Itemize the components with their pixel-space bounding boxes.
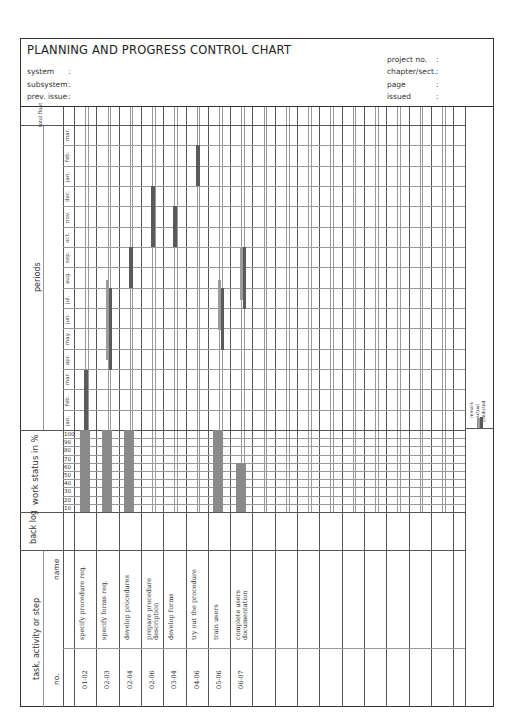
grid-line bbox=[420, 107, 421, 512]
task-name: specify forms req. bbox=[101, 552, 108, 640]
work-status-bar bbox=[124, 430, 134, 512]
legend: remark actual predicted bbox=[466, 390, 494, 428]
grid-line bbox=[397, 107, 398, 512]
grid-line bbox=[63, 267, 465, 268]
grid-line bbox=[378, 107, 379, 512]
percent-tick: 20 bbox=[64, 497, 78, 503]
backlog-label: back log bbox=[30, 509, 38, 545]
grid-line bbox=[400, 107, 401, 512]
work-status-bar bbox=[236, 463, 246, 512]
gantt-bar-predicted bbox=[221, 288, 224, 350]
month-label: apr. bbox=[64, 355, 70, 365]
grid-line bbox=[43, 125, 44, 430]
percent-tick: 80 bbox=[64, 447, 78, 453]
total-float-label: total float bbox=[37, 103, 43, 127]
grid-line bbox=[119, 107, 120, 707]
gantt-bar-predicted bbox=[129, 247, 133, 288]
task-name: complete users documentation bbox=[235, 552, 249, 640]
grid-line bbox=[163, 107, 164, 707]
legend-predicted-swatch bbox=[480, 417, 483, 428]
grid-line bbox=[330, 107, 331, 512]
month-label: may bbox=[64, 333, 70, 345]
task-name: prepare procedure description bbox=[146, 552, 160, 640]
grid-line bbox=[286, 107, 287, 512]
gantt-bar-predicted bbox=[173, 206, 177, 247]
month-label: sep. bbox=[64, 252, 70, 264]
task-number: 01-02 bbox=[81, 670, 89, 689]
grid-line bbox=[445, 107, 446, 512]
grid-line bbox=[63, 227, 465, 228]
percent-tick: 90 bbox=[64, 439, 78, 445]
legend-remark: remark bbox=[469, 402, 474, 418]
grid-line bbox=[333, 107, 334, 512]
grid-line bbox=[230, 107, 231, 707]
grid-line bbox=[63, 389, 465, 390]
task-name: develop forms bbox=[168, 552, 175, 640]
grid-line bbox=[63, 328, 465, 329]
grid-line bbox=[241, 107, 242, 512]
grid-line bbox=[422, 107, 423, 512]
gantt-bar-predicted bbox=[196, 145, 200, 186]
month-label: jan. bbox=[64, 172, 70, 182]
field-subsystem: subsystem: bbox=[27, 80, 71, 89]
grid-line bbox=[96, 107, 97, 707]
task-number: 02-03 bbox=[103, 670, 111, 689]
month-label: jun. bbox=[64, 314, 70, 324]
work-status-bar bbox=[80, 430, 90, 512]
grid-line bbox=[244, 107, 245, 512]
field-project-no: project no.: bbox=[387, 55, 439, 64]
percent-tick: 50 bbox=[64, 472, 78, 478]
task-number: 03-04 bbox=[170, 670, 178, 689]
grid-line bbox=[20, 125, 465, 126]
task-number: 05-06 bbox=[215, 670, 223, 689]
task-name: train users bbox=[213, 552, 220, 640]
month-label: nov. bbox=[64, 211, 70, 222]
grid-line bbox=[63, 247, 465, 248]
grid-line bbox=[43, 550, 44, 707]
task-name: try out the procedure bbox=[191, 552, 198, 640]
grid-line bbox=[409, 107, 410, 707]
grid-line bbox=[63, 369, 465, 370]
grid-line bbox=[289, 107, 290, 512]
grid-line bbox=[20, 550, 465, 551]
task-name: specify procedure req. bbox=[79, 552, 86, 640]
task-number: 02-06 bbox=[148, 670, 156, 689]
grid-line bbox=[63, 206, 465, 207]
grid-line bbox=[155, 107, 156, 512]
grid-line bbox=[141, 107, 142, 707]
task-group-label: task, activity or step bbox=[32, 598, 41, 680]
grid-line bbox=[63, 288, 465, 289]
grid-line bbox=[275, 107, 276, 707]
task-name: develop procedures bbox=[124, 552, 131, 640]
task-number: 04-06 bbox=[193, 670, 201, 689]
grid-line bbox=[152, 107, 153, 512]
percent-tick: 70 bbox=[64, 456, 78, 462]
task-number: 06-07 bbox=[237, 670, 245, 689]
grid-line bbox=[264, 107, 265, 512]
month-label: feb. bbox=[64, 395, 70, 406]
no-column-label: no. bbox=[52, 673, 61, 685]
work-status-bar bbox=[213, 430, 223, 512]
grid-line bbox=[364, 107, 365, 707]
month-label: oct. bbox=[64, 233, 70, 243]
grid-line bbox=[20, 512, 465, 513]
month-label: mar. bbox=[64, 129, 70, 141]
field-prev-issue: prev. issue: bbox=[27, 92, 71, 101]
grid-line bbox=[63, 145, 465, 146]
grid-line bbox=[63, 166, 465, 167]
grid-line bbox=[63, 648, 465, 649]
grid-line bbox=[186, 107, 187, 707]
periods-label: periods bbox=[33, 262, 42, 292]
field-chapter-sect: chapter/sect.: bbox=[387, 67, 439, 76]
percent-tick: 40 bbox=[64, 480, 78, 486]
grid-line bbox=[319, 107, 320, 707]
grid-line bbox=[431, 107, 432, 707]
percent-tick: 100 bbox=[64, 431, 78, 437]
gantt-bar-predicted bbox=[151, 186, 155, 247]
work-status-bar bbox=[102, 430, 112, 512]
month-label: jan. bbox=[64, 416, 70, 426]
grid-line bbox=[266, 107, 267, 512]
legend-bottom-line bbox=[465, 428, 494, 429]
grid-line bbox=[353, 107, 354, 512]
grid-line bbox=[63, 349, 465, 350]
